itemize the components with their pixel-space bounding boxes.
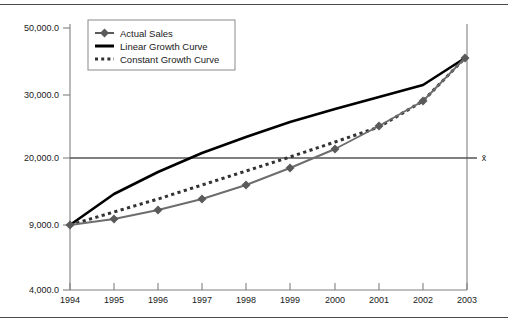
actual-sales-path	[70, 58, 465, 225]
data-point-marker	[198, 195, 207, 204]
data-point-marker	[286, 164, 295, 173]
data-point-marker	[331, 145, 340, 154]
y-tick-label-50000: 50,000.0	[24, 23, 59, 33]
top-divider-rule	[0, 4, 508, 5]
x-tick-label-1996: 1996	[148, 295, 168, 305]
x-axis-tick-labels: 1994 1995 1996 1997 1998 1999 2000 2001 …	[60, 295, 477, 305]
actual-sales-markers	[66, 54, 470, 230]
y-axis-tick-labels: 50,000.0 30,000.0 20,000.0 9,000.0 4,000…	[24, 23, 59, 295]
y-tick-label-9000: 9,000.0	[29, 220, 59, 230]
x-tick-label-1997: 1997	[192, 295, 212, 305]
chart-figure: x̄ 50	[0, 0, 508, 330]
data-point-marker	[154, 206, 163, 215]
x-tick-label-1995: 1995	[104, 295, 124, 305]
x-tick-label-2000: 2000	[325, 295, 345, 305]
x-tick-label-2002: 2002	[413, 295, 433, 305]
y-tick-label-30000: 30,000.0	[24, 90, 59, 100]
legend-label-actual-sales: Actual Sales	[120, 28, 173, 39]
x-tick-label-2001: 2001	[369, 295, 389, 305]
chart-legend: Actual Sales Linear Growth Curve Constan…	[88, 20, 235, 70]
linear-growth-curve-path	[70, 58, 465, 225]
y-tick-label-20000: 20,000.0	[24, 153, 59, 163]
sales-growth-line-chart: x̄ 50	[0, 0, 508, 330]
bottom-divider-rule	[0, 317, 508, 318]
series-actual-sales	[66, 54, 470, 230]
x-tick-label-2003: 2003	[457, 295, 477, 305]
legend-label-constant-growth-curve: Constant Growth Curve	[120, 54, 219, 65]
x-tick-label-1998: 1998	[236, 295, 256, 305]
data-point-marker	[110, 215, 119, 224]
constant-growth-curve-path	[70, 58, 465, 225]
data-point-marker	[375, 122, 384, 131]
y-tick-label-4000: 4,000.0	[29, 285, 59, 295]
series-constant-growth-curve	[70, 58, 465, 225]
legend-label-linear-growth-curve: Linear Growth Curve	[120, 41, 208, 52]
data-point-marker	[242, 181, 251, 190]
x-tick-label-1999: 1999	[280, 295, 300, 305]
series-linear-growth-curve	[70, 58, 465, 225]
x-tick-label-1994: 1994	[60, 295, 80, 305]
mean-label: x̄	[482, 153, 487, 163]
